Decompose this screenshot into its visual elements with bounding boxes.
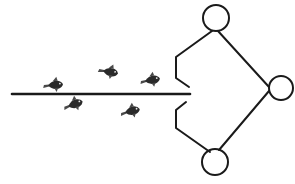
fish-school [42,62,161,121]
fish-diamond-diagram [0,0,295,184]
fish-icon [139,71,161,89]
fish-icon [97,62,119,80]
fish-icon [61,94,85,115]
right-to-bottom-edge [219,91,269,150]
fish-icon [118,101,141,121]
fish-icon [42,76,63,93]
right-circle-node [269,76,293,100]
top-circle-node [203,5,229,31]
top-to-right-edge [218,31,269,87]
lower-bracket-path [176,102,210,152]
bottom-circle-node [202,149,228,175]
upper-bracket-path [176,31,212,87]
